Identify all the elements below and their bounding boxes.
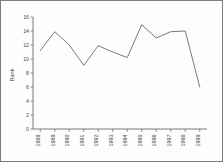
chart-plot-area: 1988198919901991199219931994199519961997… (1, 1, 223, 162)
x-tick-label: 1998 (180, 135, 186, 147)
x-tick-label: 1995 (137, 135, 143, 147)
line-chart-svg: 1988198919901991199219931994199519961997… (1, 1, 223, 162)
x-tick-label: 1999 (195, 135, 201, 147)
y-tick-label: 0 (26, 126, 29, 132)
x-tick-label: 1993 (108, 135, 114, 147)
x-tick-label: 1992 (93, 135, 99, 147)
x-tick-label: 1991 (79, 135, 85, 147)
y-tick-label: 16 (23, 14, 29, 20)
y-tick-label: 14 (23, 28, 29, 34)
x-axis-tick-labels: 1988198919901991199219931994199519961997… (35, 135, 201, 147)
x-tick-label: 1997 (166, 135, 172, 147)
y-tick-label: 4 (26, 98, 29, 104)
x-tick-label: 1989 (50, 135, 56, 147)
data-series-line (40, 25, 200, 87)
y-tick-label: 6 (26, 84, 29, 90)
x-tick-label: 1994 (122, 135, 128, 147)
chart-figure: 1988198919901991199219931994199519961997… (0, 0, 223, 162)
y-tick-label: 10 (23, 56, 29, 62)
y-tick-label: 2 (26, 112, 29, 118)
x-tick-label: 1988 (35, 135, 41, 147)
y-axis-tick-labels: 0246810121416 (23, 14, 29, 132)
x-tick-label: 1990 (64, 135, 70, 147)
y-tick-label: 12 (23, 42, 29, 48)
x-tick-label: 1996 (151, 135, 157, 147)
y-axis-title: Rank (9, 68, 15, 81)
y-tick-label: 8 (26, 70, 29, 76)
